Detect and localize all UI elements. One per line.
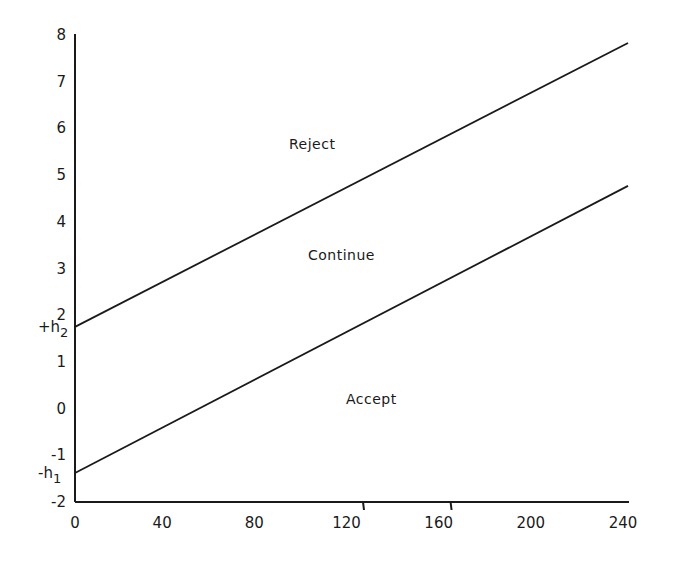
x-tick-label: 40	[153, 514, 172, 532]
sequential-test-chart: 876543210-1-2 04080120160200240 +h2 -h1 …	[0, 0, 675, 561]
upper-boundary-line	[75, 43, 628, 327]
lower-boundary-line	[75, 186, 628, 473]
y-tick-label: -2	[51, 493, 66, 511]
y-tick-label: 3	[56, 260, 66, 278]
x-tick-mark	[451, 502, 452, 510]
y-tick-label: 0	[56, 400, 66, 418]
y-tick-label: 7	[56, 73, 66, 91]
h1-intercept-label: -h1	[38, 464, 61, 486]
y-tick-label: -1	[51, 446, 66, 464]
y-tick-label: 1	[56, 353, 66, 371]
continue-region-label: Continue	[308, 247, 375, 263]
h1-label-text: -h1	[38, 464, 61, 486]
x-tick-label: 0	[70, 514, 80, 532]
y-tick-label: 5	[56, 166, 66, 184]
x-tick-marks	[363, 502, 452, 510]
accept-region-label: Accept	[346, 391, 397, 407]
x-tick-label: 160	[424, 514, 453, 532]
x-tick-mark	[363, 502, 364, 510]
y-tick-labels: 876543210-1-2	[51, 26, 66, 511]
y-tick-label: 8	[56, 26, 66, 44]
y-tick-label: 6	[56, 119, 66, 137]
x-tick-labels: 04080120160200240	[70, 514, 637, 532]
x-tick-label: 80	[245, 514, 264, 532]
axes	[75, 34, 629, 502]
reject-region-label: Reject	[289, 136, 335, 152]
y-tick-label: 4	[56, 213, 66, 231]
x-tick-label: 240	[609, 514, 638, 532]
x-tick-label: 200	[517, 514, 546, 532]
x-tick-label: 120	[332, 514, 361, 532]
